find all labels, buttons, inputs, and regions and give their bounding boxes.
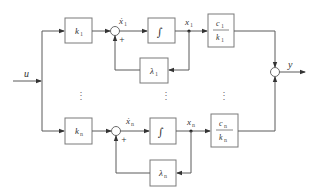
arrow-to-output-sum-top [234, 31, 275, 67]
kn-subscript: n [80, 131, 83, 137]
feedback-arrow-to-lambdan [177, 131, 191, 173]
feedback-block-lambdan [150, 160, 176, 186]
integral-symbol-1: ∫ [157, 26, 163, 39]
kn-denominator: k [219, 133, 223, 142]
x1-subscript: 1 [190, 22, 193, 28]
k1-subscript: 1 [80, 31, 83, 37]
summing-junction-n [112, 127, 121, 136]
ellipsis-gain-column: ⋮ [76, 90, 86, 101]
lambda1-subscript: 1 [155, 71, 158, 77]
arrow-to-output-sum-bottom [238, 77, 275, 131]
output-summing-junction [271, 68, 280, 77]
block-diagram: u k 1 ẋ 1 + ∫ x 1 c 1 k 1 λ 1 ⋮ ⋮ [0, 0, 313, 195]
c1-numerator: c [216, 19, 220, 28]
row-1: k 1 ẋ 1 + ∫ x 1 c 1 k 1 λ 1 [42, 14, 275, 83]
input-label: u [24, 68, 29, 79]
cn-numerator-sub: n [224, 123, 227, 129]
k1-denominator-sub: 1 [221, 37, 224, 43]
summing-junction-1 [111, 27, 120, 36]
cn-numerator: c [219, 119, 223, 128]
lambda1-symbol: λ [149, 66, 154, 76]
xn-symbol: x [186, 117, 191, 127]
xn-subscript: n [192, 122, 195, 128]
xdot1-symbol: ẋ [118, 16, 123, 26]
lambdan-symbol: λ [158, 168, 163, 178]
xdotn-subscript: n [131, 121, 134, 127]
input-signal: u [13, 68, 41, 81]
kn-denominator-sub: n [224, 137, 227, 143]
output-label: y [287, 59, 293, 70]
sum1-plus-sign: + [119, 36, 125, 44]
x1-symbol: x [184, 17, 189, 27]
sumn-plus-sign: + [121, 136, 127, 144]
ellipsis-integrator-column: ⋮ [161, 90, 171, 101]
lambdan-subscript: n [164, 173, 167, 179]
integral-symbol-n: ∫ [158, 126, 164, 139]
c1-numerator-sub: 1 [221, 23, 224, 29]
ellipsis-output-column: ⋮ [219, 90, 229, 101]
xdotn-symbol: ẋ [125, 116, 130, 126]
k1-denominator: k [216, 33, 220, 42]
xdot1-subscript: 1 [124, 21, 127, 27]
feedback-block-lambda1 [140, 58, 168, 83]
output-stage: y [271, 59, 306, 77]
